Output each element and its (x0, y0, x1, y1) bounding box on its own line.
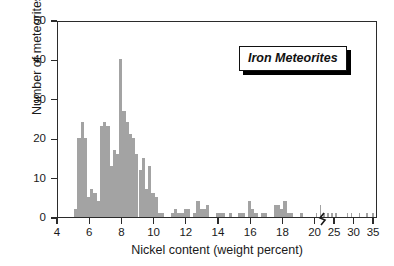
x-axis-tick (333, 218, 334, 224)
x-axis-tick-label: 6 (74, 226, 104, 238)
histogram-bar (359, 213, 361, 217)
histogram-bar (366, 213, 368, 217)
x-axis-tick (153, 218, 154, 224)
legend-label: Iron Meteorites (239, 46, 347, 71)
histogram-bar (264, 213, 267, 217)
y-axis-tick-label: 40 (6, 54, 46, 66)
x-axis-tick (250, 218, 251, 224)
x-axis-tick (353, 218, 354, 224)
histogram-bar (206, 205, 209, 217)
x-axis-tick-label: 35 (358, 226, 388, 238)
x-axis-tick (282, 218, 283, 224)
x-axis-tick-label: 14 (203, 226, 233, 238)
x-axis-tick (217, 218, 218, 224)
chart-figure: Number of meteorites 01020304050 4681012… (0, 0, 394, 266)
y-axis-tick-label: 0 (6, 212, 46, 224)
x-axis-tick (372, 218, 373, 224)
histogram-bar (347, 213, 349, 217)
x-axis-tick-label: 4 (42, 226, 72, 238)
y-axis-tick-label: 10 (6, 173, 46, 185)
y-axis-tick-label: 20 (6, 133, 46, 145)
histogram-bar (351, 213, 353, 217)
histogram-bar (222, 213, 225, 217)
histogram-bar (300, 213, 303, 217)
x-axis-tick-label: 12 (171, 226, 201, 238)
x-axis-tick (121, 218, 122, 224)
histogram-bar (372, 213, 374, 217)
x-axis-tick-label: 18 (267, 226, 297, 238)
x-axis-tick-label: 16 (235, 226, 265, 238)
x-axis-tick-label: 10 (139, 226, 169, 238)
y-axis-tick-label: 30 (6, 94, 46, 106)
histogram-bar (290, 213, 293, 217)
histogram-bar (254, 213, 257, 217)
histogram-bar (187, 209, 190, 217)
x-axis-tick (314, 218, 315, 224)
histogram-bar (229, 213, 232, 217)
histogram-bar (242, 213, 245, 217)
y-axis-tick-label: 50 (6, 15, 46, 27)
histogram-bar (335, 213, 337, 217)
x-axis-tick-label: 8 (106, 226, 136, 238)
x-axis-tick (185, 218, 186, 224)
x-axis-title: Nickel content (weight percent) (57, 243, 377, 257)
x-axis-tick (56, 218, 57, 224)
axis-break-icon (316, 212, 332, 226)
x-axis-tick (89, 218, 90, 224)
histogram-bar (161, 213, 164, 217)
